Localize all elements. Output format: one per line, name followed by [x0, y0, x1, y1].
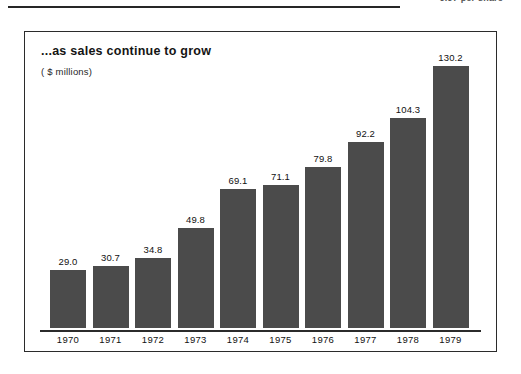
x-axis-tick-label: 1978: [384, 334, 432, 345]
bar-value-label: 92.2: [342, 128, 390, 139]
bar-group: 30.71971: [93, 40, 129, 341]
bar-value-label: 49.8: [172, 214, 220, 225]
bar-1971: [93, 266, 129, 328]
x-axis-tick-label: 1977: [342, 334, 390, 345]
bar-group: 29.01970: [50, 40, 86, 341]
x-axis-tick-label: 1975: [257, 334, 305, 345]
x-axis-tick-label: 1979: [427, 334, 475, 345]
bar-1977: [348, 142, 384, 328]
bar-group: 130.21979: [433, 40, 469, 341]
bar-value-label: 30.7: [87, 252, 135, 263]
bar-1974: [220, 189, 256, 328]
x-axis-tick-label: 1970: [44, 334, 92, 345]
bar-value-label: 104.3: [384, 104, 432, 115]
bar-value-label: 71.1: [257, 171, 305, 182]
bar-group: 79.81976: [305, 40, 341, 341]
bar-value-label: 79.8: [299, 153, 347, 164]
x-axis-tick-label: 1971: [87, 334, 135, 345]
page-header-band: 9.97 per share: [0, 0, 521, 22]
bar-value-label: 29.0: [44, 256, 92, 267]
bar-group: 104.31978: [390, 40, 426, 341]
bar-group: 34.81972: [135, 40, 171, 341]
bar-1975: [263, 185, 299, 328]
bar-group: 71.11975: [263, 40, 299, 341]
bar-1978: [390, 118, 426, 328]
bar-1972: [135, 258, 171, 328]
chart-frame: ...as sales continue to grow ( $ million…: [24, 31, 497, 352]
x-axis-tick-label: 1974: [214, 334, 262, 345]
header-rule: [8, 6, 400, 8]
bar-group: 49.81973: [178, 40, 214, 341]
x-axis-tick-label: 1972: [129, 334, 177, 345]
bar-group: 92.21977: [348, 40, 384, 341]
x-axis-tick-label: 1973: [172, 334, 220, 345]
bar-1970: [50, 270, 86, 328]
bar-1976: [305, 167, 341, 328]
bar-value-label: 34.8: [129, 244, 177, 255]
x-axis-tick-label: 1976: [299, 334, 347, 345]
per-share-note: 9.97 per share: [440, 0, 503, 3]
bar-value-label: 69.1: [214, 175, 262, 186]
plot-area: 29.0197030.7197134.8197249.8197369.11974…: [38, 42, 483, 341]
bar-1979: [433, 66, 469, 328]
bar-1973: [178, 228, 214, 328]
bar-group: 69.11974: [220, 40, 256, 341]
bar-value-label: 130.2: [427, 52, 475, 63]
